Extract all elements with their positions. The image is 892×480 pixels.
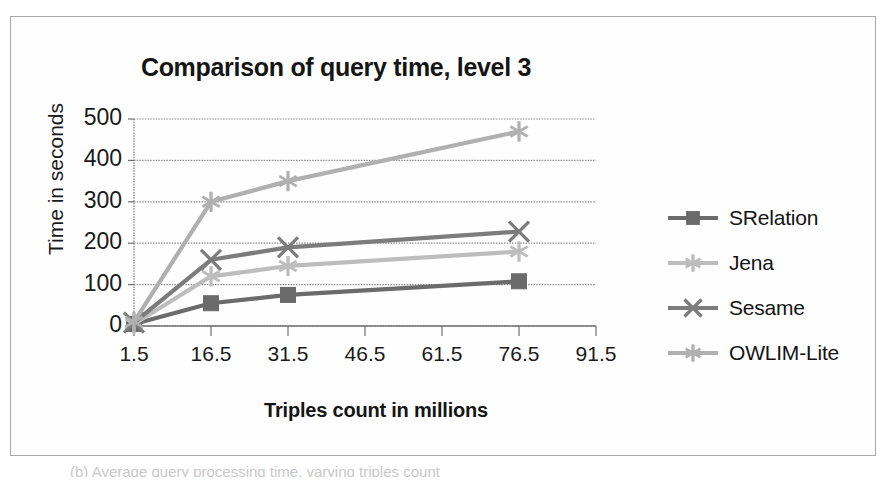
figure-caption: (b) Average query processing time, varyi… — [70, 463, 810, 477]
legend-marker-square-icon — [666, 207, 720, 229]
legend-item-owlim-lite: OWLIM-Lite — [666, 330, 881, 375]
axes — [128, 119, 596, 336]
legend-label: SRelation — [720, 206, 818, 230]
legend-marker-x-icon — [666, 297, 720, 319]
series-layer — [124, 121, 529, 334]
x-tick-label: 46.5 — [330, 343, 400, 364]
x-tick-label: 16.5 — [176, 343, 246, 364]
y-tick-label: 400 — [52, 147, 122, 170]
y-tick-label: 500 — [52, 106, 122, 129]
series-jena — [125, 241, 527, 333]
legend-label: Jena — [720, 251, 774, 275]
y-tick-label: 200 — [52, 230, 122, 253]
legend-label: OWLIM-Lite — [720, 341, 839, 365]
x-tick-label: 91.5 — [561, 343, 631, 364]
series-sesame — [124, 222, 529, 333]
x-tick-label: 1.5 — [99, 343, 169, 364]
figure-frame: Comparison of query time, level 3 Time i… — [10, 16, 876, 456]
y-axis-title: Time in seconds — [44, 64, 68, 294]
figure-page: Comparison of query time, level 3 Time i… — [0, 0, 892, 480]
y-tick-label: 100 — [52, 272, 122, 295]
legend-marker-asterisk-icon — [666, 342, 720, 364]
chart-legend: SRelationJenaSesameOWLIM-Lite — [666, 195, 881, 375]
x-tick-label: 31.5 — [253, 343, 323, 364]
x-tick-label: 76.5 — [484, 343, 554, 364]
legend-label: Sesame — [720, 296, 805, 320]
legend-item-sesame: Sesame — [666, 285, 881, 330]
x-tick-label: 61.5 — [407, 343, 477, 364]
y-tick-label: 0 — [52, 313, 122, 336]
series-owlim-lite — [125, 121, 527, 331]
legend-item-srelation: SRelation — [666, 195, 881, 240]
legend-marker-star-icon — [666, 252, 720, 274]
legend-item-jena: Jena — [666, 240, 881, 285]
x-axis-title: Triples count in millions — [121, 399, 631, 422]
y-tick-label: 300 — [52, 189, 122, 212]
